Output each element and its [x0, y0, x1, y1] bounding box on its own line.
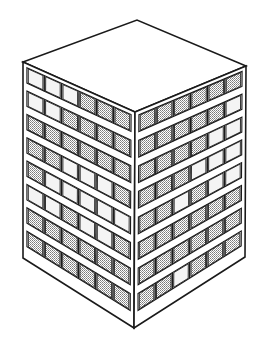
building-illustration	[0, 0, 263, 343]
building-right-facade	[134, 66, 246, 328]
building-drawing	[0, 0, 263, 343]
